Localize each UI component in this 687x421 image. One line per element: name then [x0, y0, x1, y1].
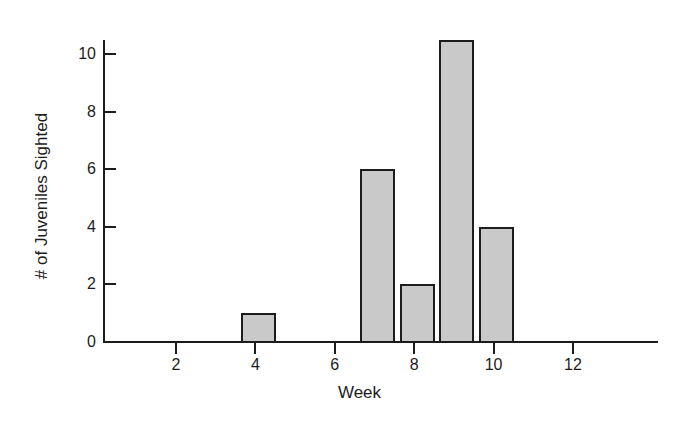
- y-tick-mark: [105, 283, 116, 285]
- y-tick-label: 4: [62, 219, 96, 235]
- bar: [439, 40, 474, 343]
- y-tick-label: 0: [62, 334, 96, 350]
- x-axis-title-text: Week: [338, 383, 381, 403]
- y-tick-label: 6: [62, 161, 96, 177]
- y-tick-mark: [105, 111, 116, 113]
- y-tick-label: 10: [62, 46, 96, 62]
- y-axis-tick-labels: 0246810: [62, 0, 96, 421]
- x-tick-mark: [334, 343, 336, 354]
- bar: [400, 284, 435, 343]
- bar: [241, 313, 276, 343]
- y-tick-mark: [105, 226, 116, 228]
- y-tick-mark: [105, 341, 116, 343]
- x-tick-label: 2: [172, 357, 181, 373]
- y-axis-title: # of Juveniles Sighted: [32, 76, 52, 316]
- x-tick-mark: [572, 343, 574, 354]
- y-axis-line: [103, 40, 105, 343]
- y-tick-label: 2: [62, 276, 96, 292]
- x-tick-mark: [493, 343, 495, 354]
- y-tick-mark: [105, 53, 116, 55]
- bar-chart-figure: 0246810 24681012 Week # of Juveniles Sig…: [0, 0, 687, 421]
- x-tick-mark: [413, 343, 415, 354]
- x-tick-label: 8: [410, 357, 419, 373]
- x-tick-label: 10: [485, 357, 503, 373]
- x-tick-label: 12: [564, 357, 582, 373]
- bar: [479, 227, 514, 343]
- x-tick-mark: [175, 343, 177, 354]
- x-axis-title: Week: [0, 383, 687, 403]
- x-tick-label: 4: [251, 357, 260, 373]
- y-tick-mark: [105, 168, 116, 170]
- y-tick-label: 8: [62, 104, 96, 120]
- x-tick-mark: [254, 343, 256, 354]
- x-tick-label: 6: [330, 357, 339, 373]
- bar: [360, 169, 395, 343]
